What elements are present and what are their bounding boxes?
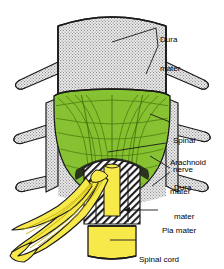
spinal-cord-core <box>88 226 136 259</box>
label-dura-mater-top: Dura mater <box>160 16 180 83</box>
label-dura-mater-mid-line1: Dura <box>174 183 194 193</box>
label-pia-mater-line1: Pia mater <box>162 226 196 236</box>
label-spinal-cord: Spinal cord <box>139 236 179 269</box>
label-spinal-cord-line1: Spinal cord <box>139 255 179 265</box>
label-dura-mater-top-line2: mater <box>160 64 180 74</box>
spinal-meninges-figure: Dura mater Spinal nerve Arachnoid mater … <box>0 0 224 269</box>
label-dura-mater-top-line1: Dura <box>160 35 180 45</box>
